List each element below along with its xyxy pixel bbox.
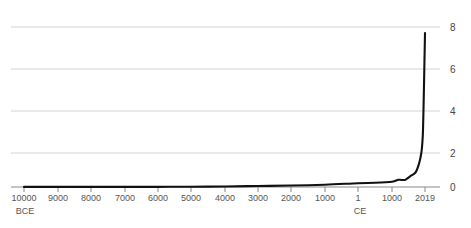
y-tick-label-2: 2	[450, 148, 456, 159]
x-tick-label-8000-bce: 8000	[81, 193, 101, 203]
era-label-ce: CE	[354, 206, 367, 216]
population-chart: 10000 9000 8000 7000 6000 5000 4000 3000…	[0, 0, 471, 228]
x-tick-label-2019-ce: 2019	[415, 193, 435, 203]
x-tick-label-10000-bce: 10000	[11, 193, 36, 203]
y-tick-label-8: 8	[450, 22, 456, 33]
x-tick-label-7000-bce: 7000	[115, 193, 135, 203]
y-tick-label-0: 0	[450, 182, 456, 193]
population-line-series	[24, 33, 425, 187]
gridlines	[11, 27, 440, 153]
x-tick-label-6000-bce: 6000	[148, 193, 168, 203]
x-tick-label-1000-ce: 1000	[382, 193, 402, 203]
y-tick-label-4: 4	[450, 106, 456, 117]
x-tick-label-2000-bce: 2000	[281, 193, 301, 203]
y-tick-label-6: 6	[450, 64, 456, 75]
x-tick-label-year-1: 1	[355, 193, 360, 203]
x-tick-label-5000-bce: 5000	[181, 193, 201, 203]
x-tick-label-3000-bce: 3000	[248, 193, 268, 203]
x-tick-label-9000-bce: 9000	[48, 193, 68, 203]
x-tick-label-1000-bce: 1000	[315, 193, 335, 203]
x-tick-label-4000-bce: 4000	[215, 193, 235, 203]
era-label-bce: BCE	[16, 206, 35, 216]
